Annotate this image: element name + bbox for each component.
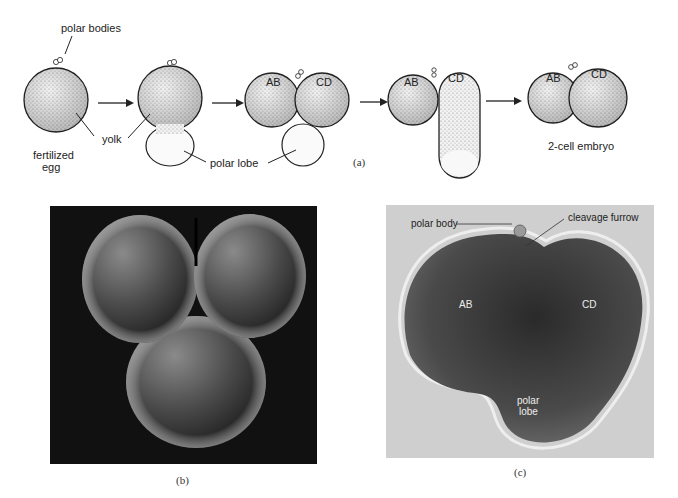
- label-polar-body: polar body: [411, 218, 458, 229]
- label-polar-bodies: polar bodies: [61, 22, 121, 34]
- label-polar-lobe-2: lobe: [519, 406, 538, 417]
- label-yolk: yolk: [102, 133, 122, 145]
- label-cd: CD: [582, 299, 596, 310]
- caption-c: (c): [514, 466, 526, 478]
- sem-cd-cell: [194, 214, 306, 338]
- label-stage4-cd: CD: [448, 72, 464, 84]
- label-stage5-cd: CD: [591, 68, 607, 80]
- caption-b: (b): [176, 474, 189, 486]
- polar-bodies-leader: [65, 36, 72, 54]
- label-stage3-ab: AB: [266, 76, 281, 88]
- polar-bodies-icon: [432, 68, 436, 77]
- sem-ab-cell: [82, 215, 198, 343]
- label-fertilized-egg-1: fertilized: [33, 149, 74, 161]
- arrow-icon: [98, 99, 134, 107]
- stage-first-cleavage: [245, 70, 349, 166]
- panel-b-sem-image: [50, 206, 317, 464]
- polar-bodies-icon: [296, 70, 304, 79]
- stage-two-cell-embryo: [528, 63, 627, 127]
- label-stage5-ab: AB: [546, 72, 561, 84]
- caption-a: (a): [353, 156, 365, 168]
- stage-fertilized-egg: [24, 36, 94, 136]
- label-fertilized-egg-2: egg: [42, 161, 60, 173]
- label-stage4-ab: AB: [404, 76, 419, 88]
- polar-bodies-icon: [53, 57, 62, 64]
- label-two-cell-embryo: 2-cell embryo: [548, 140, 614, 152]
- polar-bodies-icon: [167, 59, 176, 65]
- arrow-icon: [360, 98, 388, 106]
- label-polar-lobe-1: polar: [517, 395, 539, 406]
- label-polar-lobe: polar lobe: [210, 157, 258, 169]
- label-cleavage-furrow: cleavage furrow: [568, 212, 639, 223]
- panel-c-micrograph: polar body cleavage furrow AB CD polar l…: [386, 205, 654, 458]
- yolk-leader-1: [76, 113, 94, 136]
- label-ab: AB: [459, 299, 472, 310]
- micrograph-polar-body: [514, 225, 526, 237]
- arrow-icon: [212, 99, 244, 107]
- label-stage3-cd: CD: [316, 76, 332, 88]
- arrow-icon: [486, 97, 522, 105]
- yolk-leader-2: [128, 114, 150, 138]
- stage-lobe-fused-cd: [388, 68, 480, 178]
- polar-bodies-icon: [569, 63, 578, 70]
- stage-polar-lobe-forming: [128, 59, 206, 166]
